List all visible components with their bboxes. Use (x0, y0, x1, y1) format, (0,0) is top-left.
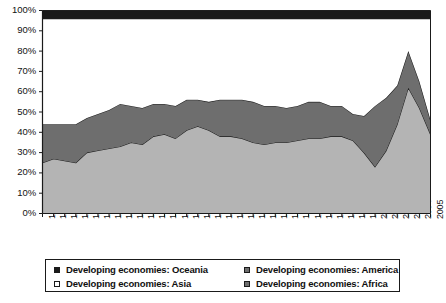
legend-swatch-icon (54, 267, 60, 273)
legend-column-right: Developing economies: AmericaDeveloping … (244, 263, 398, 291)
legend-entry[interactable]: Developing economies: Africa (244, 277, 398, 290)
legend-label: Developing economies: America (256, 264, 398, 275)
area-series-group (43, 11, 431, 214)
legend-label: Developing economies: Africa (256, 278, 388, 289)
plot-area (0, 0, 446, 303)
legend-swatch-icon (54, 281, 60, 287)
legend-label: Developing economies: Asia (66, 278, 191, 289)
legend-entry[interactable]: Developing economies: Oceania (54, 263, 208, 276)
legend-entry[interactable]: Developing economies: Asia (54, 277, 208, 290)
legend-swatch-icon (244, 281, 250, 287)
legend-column-left: Developing economies: OceaniaDeveloping … (54, 263, 208, 291)
legend-label: Developing economies: Oceania (66, 264, 208, 275)
legend-entry[interactable]: Developing economies: America (244, 263, 398, 276)
legend-swatch-icon (244, 267, 250, 273)
stacked-area-chart: 0%10%20%30%40%50%60%70%80%90%100% 197019… (0, 0, 446, 303)
area-oceania (43, 11, 431, 19)
chart-legend: Developing economies: OceaniaDeveloping … (45, 259, 400, 292)
